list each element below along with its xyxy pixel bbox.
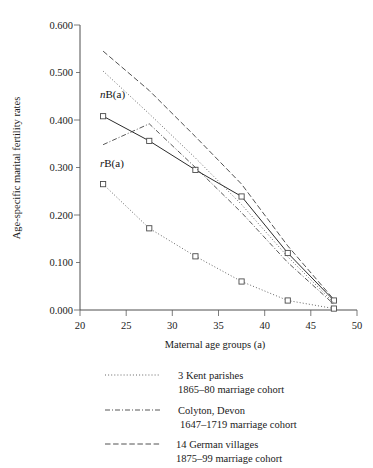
legend-label-kent-line1: 3 Kent parishes [178, 370, 243, 381]
y-tick-label: 0.200 [49, 210, 73, 221]
legend-label-german-line2: 1875–99 marriage cohort [176, 453, 282, 464]
y-axis-title: Age-specific marital fertility rates [11, 97, 22, 240]
x-axis [80, 310, 357, 316]
curve-label-rB: rB(a) [100, 157, 124, 170]
curve-label-rB-rest: B(a) [104, 157, 124, 170]
y-axis-tick-labels: 0.600 0.500 0.400 0.300 0.200 0.100 0.00… [49, 20, 73, 316]
data-point-marker [100, 114, 105, 119]
y-axis [74, 25, 80, 310]
legend-label-kent-line2: 1865–80 marriage cohort [178, 384, 284, 395]
legend: 3 Kent parishes 1865–80 marriage cohort … [105, 370, 297, 464]
curve-label-nB-rest: B(a) [106, 88, 126, 101]
x-tick-label: 20 [75, 320, 86, 331]
series-line-3 [103, 124, 334, 304]
x-tick-label: 45 [306, 320, 317, 331]
x-tick-label: 40 [259, 320, 270, 331]
series-line-1 [103, 184, 334, 308]
x-tick-label: 25 [121, 320, 132, 331]
data-point-marker [100, 182, 105, 187]
data-point-marker [147, 226, 152, 231]
y-tick-label: 0.300 [49, 162, 73, 173]
data-point-marker [147, 138, 152, 143]
data-point-marker [331, 298, 336, 303]
legend-label-colyton-line2: 1647–1719 marriage cohort [180, 419, 297, 430]
y-tick-label: 0.100 [49, 257, 73, 268]
series-line-2 [103, 71, 334, 303]
x-tick-label: 30 [167, 320, 178, 331]
data-point-marker [331, 306, 336, 311]
data-point-marker [285, 298, 290, 303]
curve-label-nB: nB(a) [100, 88, 125, 101]
x-axis-tick-labels: 20 25 30 35 40 45 50 [75, 320, 363, 331]
y-tick-label: 0.600 [49, 20, 73, 31]
x-axis-title: Maternal age groups (a) [165, 339, 266, 351]
chart-svg: Age-specific marital fertility rates 0.6… [0, 0, 373, 468]
data-point-marker [239, 194, 244, 199]
x-tick-label: 35 [213, 320, 224, 331]
y-tick-label: 0.000 [49, 305, 73, 316]
series-line-4 [103, 51, 334, 299]
legend-label-german-line1: 14 German villages [176, 439, 258, 450]
data-point-marker [239, 279, 244, 284]
data-point-marker [285, 250, 290, 255]
x-tick-label: 50 [352, 320, 363, 331]
legend-label-colyton-line1: Colyton, Devon [178, 405, 246, 416]
y-tick-label: 0.400 [49, 115, 73, 126]
fertility-chart-figure: Age-specific marital fertility rates 0.6… [0, 0, 373, 468]
data-point-marker [193, 254, 198, 259]
series-layer [100, 51, 336, 311]
y-tick-label: 0.500 [49, 67, 73, 78]
